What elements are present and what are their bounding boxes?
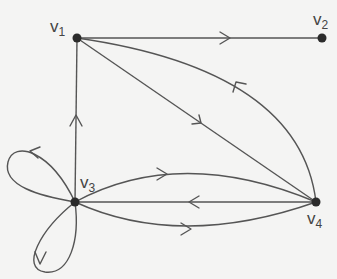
vertex-v2 [318,34,327,43]
label-v4: v4 [307,209,323,231]
edge-v1-v4 [77,38,316,202]
vertex-v3 [71,198,80,207]
label-v3: v3 [80,173,96,195]
vertex-v1 [73,34,82,43]
arrow-icon [35,252,46,264]
label-v2: v2 [313,10,329,32]
arrow-icon [233,82,246,92]
arrow-icon [181,223,191,235]
edge-v3-v1 [75,38,77,202]
loop-v3-lower [34,202,76,272]
vertex-v4 [312,198,321,207]
graph-diagram: v1 v2 v3 v4 [0,0,337,279]
label-v1: v1 [50,17,66,39]
loop-v3-upper [7,151,75,202]
